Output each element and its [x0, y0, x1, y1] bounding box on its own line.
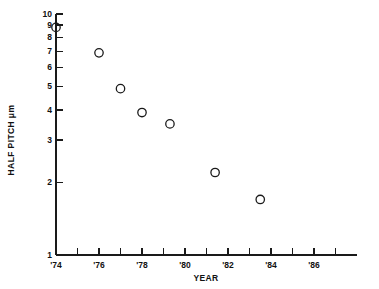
y-axis-tick-label: 10 [43, 9, 53, 19]
chart-container: 12345678910 '74'76'78'80'82'84'86 YEAR H… [0, 0, 379, 289]
y-axis-tick-label: 3 [47, 135, 52, 145]
y-axis-tick-label: 8 [47, 32, 52, 42]
y-axis-title: HALF PITCH μm [6, 105, 16, 176]
data-point-marker [256, 195, 264, 203]
x-axis-tick-label: '86 [308, 260, 320, 270]
y-axis-tick-label: 6 [47, 62, 52, 72]
data-point-marker [116, 84, 124, 92]
x-axis-tick-label: '74 [50, 260, 62, 270]
y-axis-tick-label: 2 [47, 177, 52, 187]
x-axis-tick-label: '84 [265, 260, 277, 270]
y-axis-tick-label: 1 [47, 250, 52, 260]
x-axis-tick-label: '80 [179, 260, 191, 270]
data-point-marker [166, 120, 174, 128]
y-axis-tick-labels: 12345678910 [43, 9, 53, 260]
data-point-marker [95, 49, 103, 57]
x-axis-tick-label: '82 [222, 260, 234, 270]
y-axis-tick-label: 5 [47, 81, 52, 91]
scatter-plot: 12345678910 '74'76'78'80'82'84'86 YEAR H… [0, 0, 379, 289]
x-axis-tick-label: '78 [136, 260, 148, 270]
x-axis-title: YEAR [193, 273, 218, 283]
x-axis-tick-group [56, 248, 336, 255]
y-axis-tick-label: 4 [47, 105, 52, 115]
x-axis-tick-label: '76 [93, 260, 105, 270]
data-point-marker [138, 108, 146, 116]
x-axis-tick-labels: '74'76'78'80'82'84'86 [50, 260, 320, 270]
data-point-marker [211, 168, 219, 176]
y-axis-tick-label: 7 [47, 46, 52, 56]
data-point-group [52, 23, 265, 203]
y-axis-tick-group [56, 14, 63, 255]
